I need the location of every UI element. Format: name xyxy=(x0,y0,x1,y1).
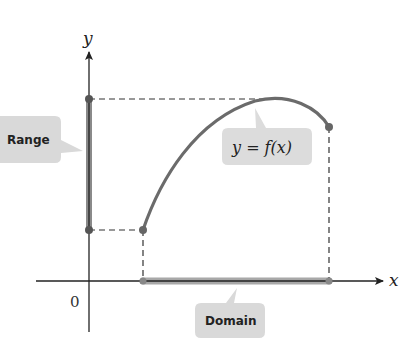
domain-right-dot xyxy=(326,278,333,285)
curve-end-dot xyxy=(325,123,333,131)
curve-start-dot xyxy=(139,226,147,234)
range-bottom-dot xyxy=(85,226,93,234)
function-label: y = f(x) xyxy=(231,138,292,157)
domain-callout: Domain xyxy=(195,288,265,338)
domain-left-dot xyxy=(140,278,147,285)
y-axis-label: y xyxy=(82,28,93,48)
function-callout: y = f(x) xyxy=(222,108,312,165)
range-top-dot xyxy=(85,95,93,103)
range-label: Range xyxy=(7,133,50,147)
domain-range-diagram: y x 0 Range y = f(x) Domain xyxy=(0,0,406,348)
origin-label: 0 xyxy=(70,293,80,311)
range-callout: Range xyxy=(0,116,83,163)
domain-label: Domain xyxy=(205,314,256,328)
x-axis-label: x xyxy=(389,270,399,290)
